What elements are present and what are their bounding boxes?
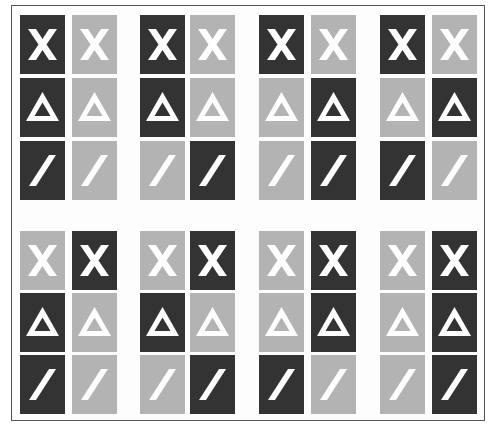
tile-group7-row1-col2 bbox=[311, 231, 356, 290]
tile-group8-row2-col2 bbox=[432, 293, 477, 352]
tile-group2-row1-col1 bbox=[140, 15, 185, 74]
tile-group6-row1-col2 bbox=[190, 231, 235, 290]
tile-group6-row2-col1 bbox=[140, 293, 185, 352]
tile-group2-row3-col2 bbox=[190, 141, 235, 200]
tile-group8-row1-col2 bbox=[432, 231, 477, 290]
tile-group7-row2-col1 bbox=[259, 293, 304, 352]
tile-group6-row3-col2 bbox=[190, 355, 235, 414]
tile-group5-row2-col2 bbox=[72, 293, 117, 352]
tile-group8-row3-col1 bbox=[380, 355, 425, 414]
tile-group3-row3-col1 bbox=[259, 141, 304, 200]
tile-group6-row2-col2 bbox=[190, 293, 235, 352]
tile-group6-row1-col1 bbox=[140, 231, 185, 290]
tile-group7-row1-col1 bbox=[259, 231, 304, 290]
tile-group6-row3-col1 bbox=[140, 355, 185, 414]
tile-group3-row1-col1 bbox=[259, 15, 304, 74]
tile-group1-row3-col2 bbox=[72, 141, 117, 200]
tile-group5-row2-col1 bbox=[20, 293, 65, 352]
tile-group4-row1-col1 bbox=[380, 15, 425, 74]
tile-group1-row1-col2 bbox=[72, 15, 117, 74]
tile-group2-row2-col2 bbox=[190, 78, 235, 137]
tile-group8-row3-col2 bbox=[432, 355, 477, 414]
tile-group4-row2-col1 bbox=[380, 78, 425, 137]
tile-group8-row1-col1 bbox=[380, 231, 425, 290]
tile-group8-row2-col1 bbox=[380, 293, 425, 352]
tile-group4-row1-col2 bbox=[432, 15, 477, 74]
tile-group3-row1-col2 bbox=[311, 15, 356, 74]
tile-group2-row2-col1 bbox=[140, 78, 185, 137]
tile-group7-row3-col2 bbox=[311, 355, 356, 414]
tile-group3-row3-col2 bbox=[311, 141, 356, 200]
tile-group5-row1-col2 bbox=[72, 231, 117, 290]
tile-group4-row3-col1 bbox=[380, 141, 425, 200]
tile-group2-row3-col1 bbox=[140, 141, 185, 200]
tile-group2-row1-col2 bbox=[190, 15, 235, 74]
tile-group3-row2-col1 bbox=[259, 78, 304, 137]
tile-group1-row1-col1 bbox=[20, 15, 65, 74]
tile-group5-row3-col1 bbox=[20, 355, 65, 414]
tile-group3-row2-col2 bbox=[311, 78, 356, 137]
tile-group7-row3-col1 bbox=[259, 355, 304, 414]
tile-group1-row3-col1 bbox=[20, 141, 65, 200]
tile-group5-row3-col2 bbox=[72, 355, 117, 414]
tile-group1-row2-col1 bbox=[20, 78, 65, 137]
tile-group1-row2-col2 bbox=[72, 78, 117, 137]
tile-group7-row2-col2 bbox=[311, 293, 356, 352]
tile-group5-row1-col1 bbox=[20, 231, 65, 290]
tile-group4-row3-col2 bbox=[432, 141, 477, 200]
tile-group4-row2-col2 bbox=[432, 78, 477, 137]
